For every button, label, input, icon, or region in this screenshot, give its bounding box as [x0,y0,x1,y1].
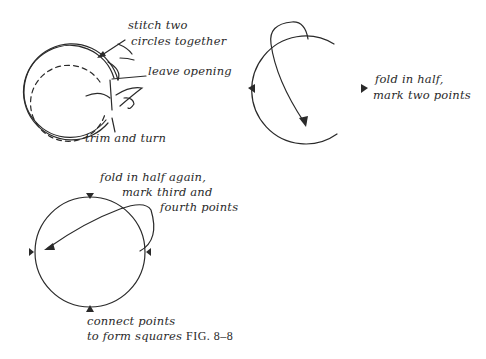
fold-again-arrow [48,205,154,251]
label-connect-line1: connect points [87,314,175,329]
figure-caption: FIG. 8–8 [186,329,233,344]
arrowhead-icon [299,116,308,127]
figure-8-8: stitch two circles together leave openin… [0,0,486,359]
label-connect-line2: to form squares [87,329,182,344]
fabric-flap [116,88,142,106]
marker-right-icon [361,84,368,93]
marker-right-icon [146,248,151,256]
step2-circle [252,22,337,144]
marker-bottom-icon [86,305,94,312]
marker-left-icon [29,248,34,256]
circle-2 [252,36,337,144]
fold-arrow [271,22,308,122]
stitch-line [31,65,105,141]
circle-3 [35,197,145,307]
label-stitch-line1: stitch two [128,18,188,33]
label-fold-again-line3: fourth points [160,200,238,215]
diagram-drawing [0,0,486,359]
label-fold-line2: mark two points [373,88,471,103]
step3-circle [35,197,154,307]
step1-circles [23,40,146,141]
label-fold-line1: fold in half, [375,72,444,87]
label-fold-again-line2: mark third and [122,185,213,200]
label-fold-again-line1: fold in half again, [100,170,206,185]
marker-top-icon [86,193,94,199]
label-trim-and-turn: trim and turn [85,131,166,146]
label-leave-opening: leave opening [148,64,232,79]
label-stitch-line2: circles together [131,34,226,49]
leader-trim [112,118,115,132]
